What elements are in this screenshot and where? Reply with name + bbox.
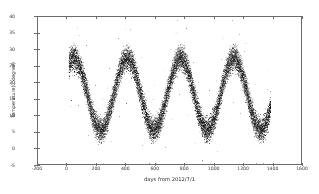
x-axis-label: days from 2012/7/1	[37, 176, 302, 182]
x-tick-label: 800	[180, 166, 189, 171]
y-tick-mark-inner	[37, 33, 40, 34]
y-tick-label: 35	[9, 30, 15, 35]
x-tick-label: 1400	[267, 166, 279, 171]
y-tick-mark-inner	[37, 99, 40, 100]
x-tick-label: 0	[65, 166, 68, 171]
x-tick-label: 1000	[208, 166, 220, 171]
x-tick-mark-inner	[302, 16, 303, 19]
x-tick-label: -200	[32, 166, 42, 171]
y-tick-mark-inner	[37, 66, 40, 67]
x-tick-mark-inner	[184, 16, 185, 19]
x-tick-mark-inner	[155, 16, 156, 19]
y-tick-mark-inner	[37, 132, 40, 133]
x-tick-label: 1600	[296, 166, 308, 171]
x-tick-label: 1200	[237, 166, 249, 171]
y-tick-label: 40	[9, 14, 15, 19]
x-tick-mark-inner	[273, 16, 274, 19]
y-tick-label: 0	[12, 146, 15, 151]
y-tick-label: -5	[10, 163, 15, 168]
y-axis-label: Temperature(C degree)	[11, 62, 16, 118]
x-tick-label: 600	[150, 166, 159, 171]
figure-canvas: -50510152025303540 -20002004006008001000…	[0, 0, 319, 194]
x-tick-label: 200	[91, 166, 100, 171]
x-tick-mark-inner	[66, 16, 67, 19]
y-tick-mark-inner	[37, 148, 40, 149]
y-tick-mark-inner	[37, 115, 40, 116]
x-tick-mark-inner	[96, 16, 97, 19]
x-tick-mark-inner	[214, 16, 215, 19]
y-tick-mark-inner	[37, 49, 40, 50]
y-tick-mark-inner	[37, 82, 40, 83]
x-tick-label: 400	[121, 166, 130, 171]
x-tick-mark-inner	[243, 16, 244, 19]
x-tick-mark-inner	[125, 16, 126, 19]
y-tick-label: 30	[9, 47, 15, 52]
x-tick-mark-inner	[37, 16, 38, 19]
tick-layer: -50510152025303540 -20002004006008001000…	[0, 0, 319, 194]
y-tick-label: 5	[12, 129, 15, 134]
